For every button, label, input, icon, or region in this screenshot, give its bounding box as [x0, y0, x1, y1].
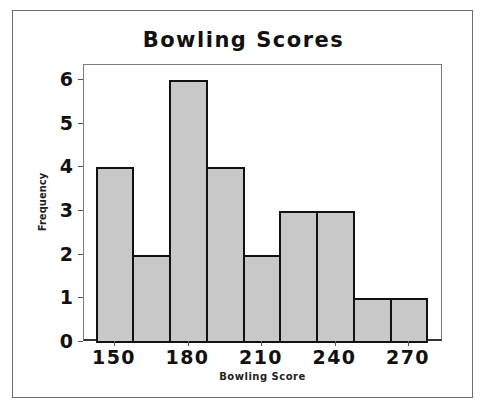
y-tick-label: 6	[43, 69, 73, 89]
y-tick-label: 3	[43, 200, 73, 220]
y-axis-title: Frequency	[37, 173, 48, 232]
histogram-bar	[132, 255, 171, 343]
chart-title: Bowling Scores	[0, 28, 487, 52]
y-tick	[78, 254, 83, 255]
y-tick-label: 2	[43, 244, 73, 264]
y-tick	[78, 297, 83, 298]
y-tick	[78, 341, 83, 342]
plot-area	[83, 64, 442, 341]
y-tick-label: 5	[43, 113, 73, 133]
y-tick-label: 0	[43, 331, 73, 351]
y-tick	[78, 79, 83, 80]
histogram-bar	[279, 211, 318, 343]
x-tick-label: 240	[305, 346, 365, 368]
histogram-bar	[206, 167, 245, 343]
x-tick-label: 270	[378, 346, 438, 368]
x-tick-label: 150	[84, 346, 144, 368]
x-axis-title: Bowling Score	[83, 371, 442, 382]
y-tick-label: 4	[43, 156, 73, 176]
histogram-bar	[316, 211, 355, 343]
histogram-bar	[96, 167, 135, 343]
histogram-bar	[169, 80, 208, 343]
histogram-bar	[353, 298, 392, 343]
x-tick-label: 210	[231, 346, 291, 368]
y-tick	[78, 166, 83, 167]
x-tick-label: 180	[158, 346, 218, 368]
histogram-bar	[243, 255, 282, 343]
histogram-bar	[390, 298, 429, 343]
y-tick	[78, 123, 83, 124]
y-tick-label: 1	[43, 287, 73, 307]
y-tick	[78, 210, 83, 211]
